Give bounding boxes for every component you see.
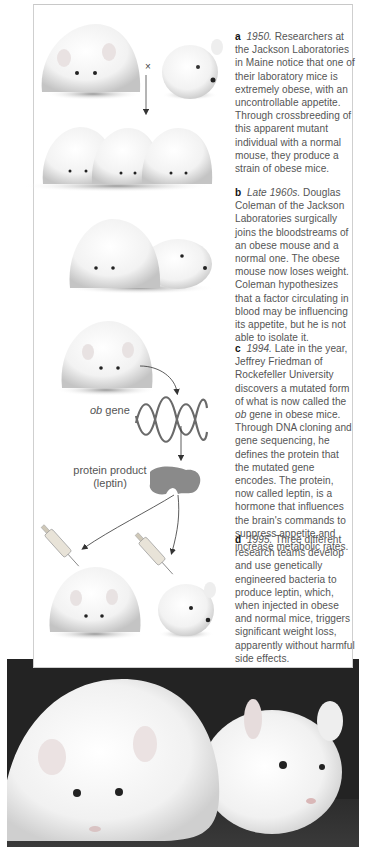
panel-a-normal-mouse [162,39,223,100]
caption-b: b Late 1960s. Douglas Coleman of the Jac… [235,186,355,344]
caption-d-date: 1995. [247,534,273,545]
caption-a-letter: a [235,31,241,42]
caption-c-date: 1994. [246,343,272,354]
protein-product-label: protein product (leptin) [72,464,148,490]
caption-b-date: Late 1960s. [247,187,300,198]
syringe-icon [39,523,83,570]
ob-gene-label-suffix: gene [102,404,130,416]
ob-gene-label-italic: ob [90,404,102,416]
caption-c-letter: c [235,343,241,354]
protein-label-line2: (leptin) [72,477,148,490]
arrow-to-obese-injection [84,495,174,548]
panel-a-obese-mouse [42,24,141,100]
protein-label-line1: protein product [72,464,148,477]
mice-photo-illustration [7,659,359,847]
caption-c-ob: ob [235,409,246,420]
caption-c-text-2: gene in obese mice. Through DNA cloning … [235,409,352,552]
caption-d-text: Three different research teams develop a… [235,534,355,664]
panel-b-joined-mice [65,219,215,294]
panel-c-obese-mouse [56,321,156,396]
panel-a-obese-offspring [22,127,212,192]
arrow-to-normal-injection [172,495,179,552]
caption-c: c 1994. Late in the year, Jeffrey Friedm… [235,342,355,553]
syringe-icon [133,531,177,578]
photo-obese-and-normal-mouse [7,659,359,847]
dna-helix-icon [136,397,207,442]
caption-b-letter: b [235,187,241,198]
caption-a-text: Researchers at the Jackson Laboratories … [235,31,355,174]
caption-a: a 1950. Researchers at the Jackson Labor… [235,30,355,175]
caption-b-text: Douglas Coleman of the Jackson Laborator… [235,187,349,343]
cross-symbol: × [145,61,151,72]
panel-d-injected-normal-mouse [158,582,216,639]
panel-d-injected-obese-mouse [47,567,143,640]
caption-d: d 1995. Three different research teams d… [235,533,355,665]
caption-d-letter: d [235,534,241,545]
ob-gene-label: ob gene [90,404,130,417]
protein-leptin-icon [150,467,201,495]
caption-a-date: 1950. [246,31,272,42]
